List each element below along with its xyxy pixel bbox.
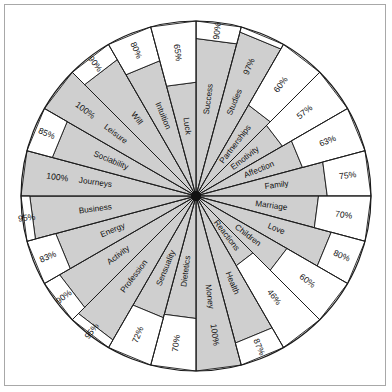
center-hub	[192, 192, 201, 201]
wheel-svg: SuccessStudiesPartnershipsEmotivityAffec…	[0, 0, 392, 392]
radial-percentage-wheel-chart: SuccessStudiesPartnershipsEmotivityAffec…	[0, 0, 392, 392]
